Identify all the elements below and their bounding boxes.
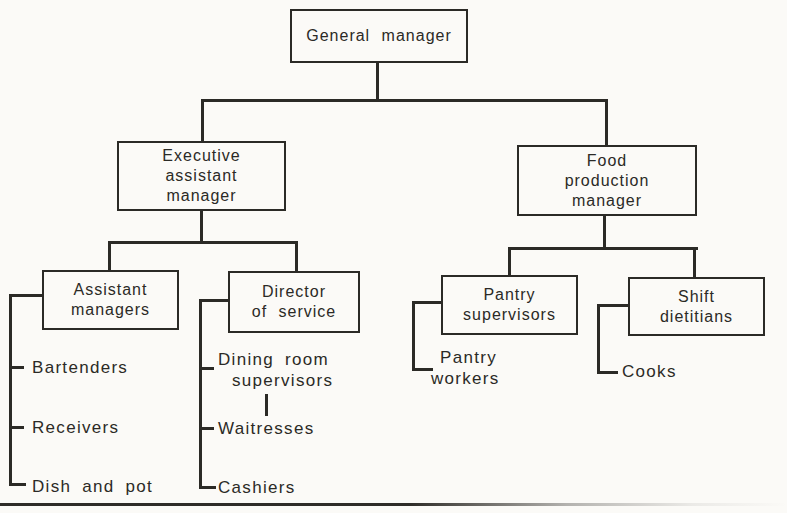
- leaf-label-line: workers: [431, 368, 500, 389]
- leaf-label-line: Dining room: [218, 349, 333, 370]
- tick-bartenders: [9, 366, 24, 369]
- node-label: supervisors: [463, 305, 556, 325]
- bracket-director-spine: [199, 299, 202, 489]
- node-executive-assistant-manager: Executive assistant manager: [117, 141, 286, 211]
- connector-executive-stem: [200, 209, 203, 244]
- bracket-dietitians-arm: [597, 304, 628, 307]
- connector-to-food-production: [605, 99, 608, 147]
- connector-to-pantry-supervisors: [508, 247, 511, 277]
- node-pantry-supervisors: Pantry supervisors: [441, 275, 578, 335]
- node-label: Assistant: [74, 280, 148, 300]
- node-label: Pantry: [483, 285, 535, 305]
- org-chart-figure: General manager Executive assistant mana…: [0, 0, 787, 513]
- node-label: Director: [262, 282, 326, 302]
- node-director-of-service: Director of service: [228, 271, 360, 333]
- tick-waitresses: [199, 427, 214, 430]
- leaf-cooks: Cooks: [622, 361, 677, 382]
- node-label: Shift: [678, 287, 715, 307]
- page-bottom-rule: [0, 503, 787, 506]
- leaf-label-line: supervisors: [232, 370, 333, 391]
- connector-executive-crossbar: [108, 241, 298, 244]
- tick-receivers: [9, 426, 24, 429]
- leaf-label-line: Pantry: [440, 347, 500, 368]
- bracket-assistant-managers-arm: [9, 294, 42, 297]
- node-label: managers: [71, 300, 150, 320]
- node-label: of service: [252, 302, 336, 322]
- node-assistant-managers: Assistant managers: [42, 270, 179, 330]
- leaf-dining-room-supervisors: Dining room supervisors: [218, 349, 333, 391]
- node-label: manager: [572, 191, 642, 211]
- leaf-cashiers: Cashiers: [218, 477, 295, 498]
- node-label: manager: [166, 186, 236, 206]
- connector-level2-crossbar: [201, 99, 608, 102]
- bracket-assistant-managers-spine: [9, 294, 12, 486]
- bracket-pantry-spine: [412, 301, 415, 371]
- bracket-dietitians-spine: [597, 304, 600, 374]
- leaf-pantry-workers: Pantry workers: [431, 347, 500, 389]
- node-label: Executive: [162, 146, 240, 166]
- bracket-pantry-arm: [412, 301, 442, 304]
- tick-dish-and-pot: [9, 483, 26, 486]
- node-general-manager: General manager: [290, 9, 468, 63]
- tick-dining-room-supervisors: [199, 367, 214, 370]
- node-label: General manager: [306, 26, 452, 46]
- node-label: assistant: [165, 166, 237, 186]
- connector-to-shift-dietitians: [693, 247, 696, 279]
- node-food-production-manager: Food production manager: [517, 145, 697, 216]
- tick-cashiers: [199, 486, 216, 489]
- leaf-bartenders: Bartenders: [32, 357, 128, 378]
- tick-pantry-workers: [412, 368, 433, 371]
- leaf-dish-and-pot: Dish and pot: [32, 476, 153, 497]
- tick-cooks: [597, 371, 618, 374]
- connector-food-production-stem: [603, 214, 606, 250]
- node-label: Food: [587, 151, 627, 171]
- connector-to-director-of-service: [295, 241, 298, 273]
- leaf-receivers: Receivers: [32, 417, 119, 438]
- node-label: dietitians: [660, 307, 733, 327]
- connector-gm-stem: [376, 61, 379, 101]
- leaf-waitresses: Waitresses: [218, 418, 314, 439]
- node-shift-dietitians: Shift dietitians: [628, 277, 765, 336]
- connector-to-assistant-managers: [108, 241, 111, 272]
- connector-to-executive: [201, 99, 204, 143]
- node-label: production: [565, 171, 650, 191]
- connector-supervisors-to-waitresses: [265, 394, 268, 416]
- connector-food-production-crossbar: [508, 247, 698, 250]
- bracket-director-arm: [199, 299, 229, 302]
